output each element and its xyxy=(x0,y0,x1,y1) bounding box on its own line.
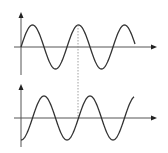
upper-graph xyxy=(14,12,157,75)
lower-graph xyxy=(14,84,157,147)
lower-y-axis-arrow-icon xyxy=(19,84,24,90)
upper-x-axis-arrow-icon xyxy=(151,45,157,50)
wave-phase-diagram xyxy=(0,0,168,153)
lower-x-axis-arrow-icon xyxy=(151,116,157,121)
upper-y-axis-arrow-icon xyxy=(19,12,24,18)
